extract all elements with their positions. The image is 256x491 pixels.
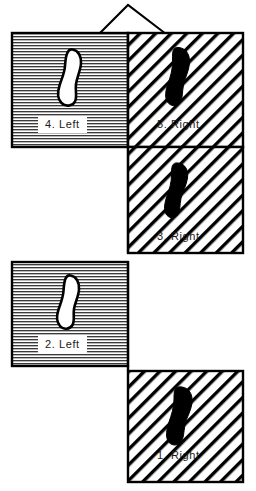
panel-label-4: 4. Left [38, 116, 87, 133]
panel-label-5: 5. Right [153, 116, 204, 133]
panel-1-graphic [128, 371, 243, 482]
apex-peak [99, 5, 166, 34]
panel-label-1: 1. Right [153, 447, 204, 464]
panel-label-3: 3. Right [153, 228, 204, 245]
diagram-canvas [0, 0, 256, 491]
footprint-sequence-diagram: 4. Left 5. Right 3. Right 2. Left 1. Rig… [0, 0, 256, 491]
panel-label-2: 2. Left [38, 336, 87, 353]
